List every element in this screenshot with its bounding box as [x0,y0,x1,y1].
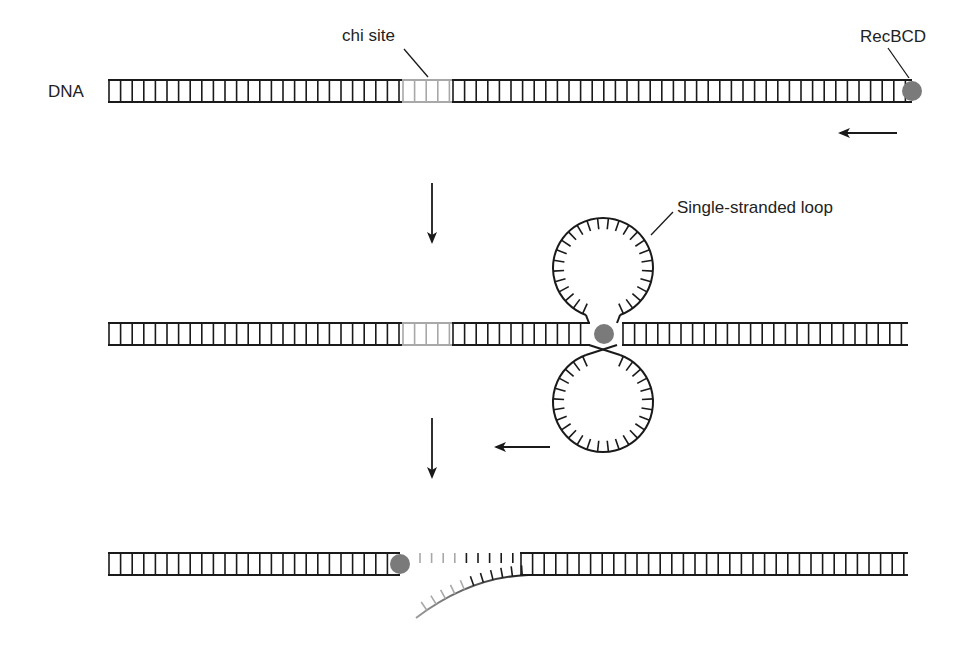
unpaired-base [623,225,629,234]
unpaired-base [640,388,651,391]
unpaired-base [583,356,587,366]
unpaired-base [559,287,569,292]
unpaired-base [561,424,570,430]
unpaired-base [642,408,653,410]
recbcd-leader-line [888,48,909,78]
unpaired-base [565,294,573,301]
unpaired-base [561,240,570,246]
unpaired-base [635,240,644,246]
unpaired-base [460,580,464,589]
unpaired-base [640,279,651,282]
unpaired-base [598,441,599,452]
unpaired-base [583,304,587,314]
unpaired-base [450,585,454,594]
dna-ladder-segment [108,323,402,345]
unpaired-base [635,424,644,430]
chi-site-label: chi site [342,27,395,44]
recbcd-enzyme-icon [594,324,614,344]
unpaired-base [587,221,591,231]
unpaired-base [577,435,583,444]
unpaired-base [598,218,599,229]
unpaired-base [630,430,638,438]
unpaired-base [607,218,608,229]
recbcd-enzyme-icon [902,81,922,101]
dna-label: DNA [48,83,84,100]
chi-site-leader-line [404,49,428,77]
dna-ladder-segment [520,553,908,575]
loop-backbone [553,218,653,315]
unpaired-base [573,362,580,371]
unpaired-base [587,439,591,449]
recbcd-label: RecBCD [860,28,926,45]
loop-backbone [553,355,653,452]
panel-step-1 [108,80,922,133]
unpaired-base [607,441,608,452]
unpaired-base [619,304,623,314]
unpaired-base [491,570,493,580]
unpaired-base [573,299,580,308]
unpaired-base [568,232,576,240]
unpaired-base [421,602,427,610]
single-stranded-loop [553,345,653,452]
unpaired-base [642,399,653,400]
dna-ladder-segment [108,553,400,575]
unpaired-base [626,362,633,371]
unpaired-base [501,568,503,578]
unpaired-base [642,260,653,262]
single-stranded-tail [410,553,528,618]
unpaired-base [642,270,653,271]
dna-ladder-segment [108,80,402,102]
unpaired-base [637,287,647,292]
unpaired-base [559,378,569,383]
dna-ladder-segment [402,323,452,345]
unpaired-base [480,573,483,583]
unpaired-base [441,590,446,599]
single-stranded-loop-label: Single-stranded loop [677,199,833,216]
panel-step-3 [108,553,908,618]
unpaired-base [556,250,566,254]
unpaired-base [555,388,566,391]
recbcd-enzyme-icon [390,554,410,574]
loop-connector [586,315,589,323]
single-stranded-loop [553,218,653,323]
dna-ladder-segment [452,80,912,102]
unpaired-base [522,565,523,575]
dna-ladder-segment [452,323,590,345]
loop-connector [617,315,620,323]
loop-leader-line [651,212,673,235]
unpaired-base [626,299,633,308]
unpaired-base [639,416,649,420]
dna-ladder-segment [402,80,452,102]
unpaired-base [616,439,620,449]
unpaired-base [554,260,565,262]
unpaired-base [554,408,565,410]
unpaired-base [619,356,623,366]
unpaired-base [616,221,620,231]
unpaired-base [565,369,573,376]
unpaired-base [470,576,473,585]
unpaired-base [553,270,564,271]
unpaired-base [632,294,640,301]
unpaired-base [511,566,512,576]
unpaired-base [553,399,564,400]
unpaired-base [568,430,576,438]
unpaired-base [630,232,638,240]
unpaired-base [623,435,629,444]
dna-ladder-segment [622,323,908,345]
unpaired-base [637,378,647,383]
unpaired-base [431,596,436,605]
unpaired-base [577,225,583,234]
panel-step-2 [108,218,908,452]
unpaired-base [639,250,649,254]
recbcd-diagram [0,0,970,645]
unpaired-base [555,279,566,282]
unpaired-base [556,416,566,420]
unpaired-base [632,369,640,376]
